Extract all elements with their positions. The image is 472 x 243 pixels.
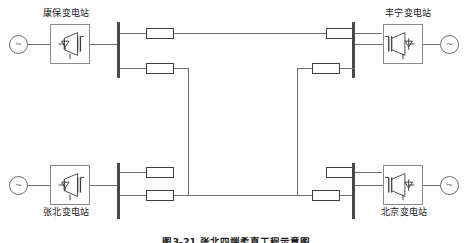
ac-source-icon-fengning: ~ [440, 35, 459, 54]
converter-busbar-link-zhangbei [90, 185, 119, 186]
smoothing-reactor-bottom-right-2 [312, 190, 340, 201]
converter-fengning [383, 24, 423, 64]
igbt-converter-icon [384, 25, 422, 63]
smoothing-reactor-top-left-2 [146, 63, 174, 74]
dc-busbar-kangbao [117, 22, 120, 78]
busbar-reactor-link-bottom-2 [120, 195, 146, 196]
converter-kangbao [50, 24, 90, 64]
busbar-reactor-link-top-1 [120, 33, 146, 34]
converter-beijing [383, 165, 423, 205]
station-label-fengning: 丰宁变电站 [385, 8, 432, 19]
riser-reactor-link-right [297, 68, 312, 69]
dc-busbar-beijing [352, 163, 355, 219]
busbar-converter-link-beijing [355, 185, 383, 186]
busbar-reactor-link-top-2 [120, 68, 146, 69]
dc-transmission-line-bottom [174, 195, 326, 196]
converter-ac-link-fengning [423, 44, 441, 45]
busbar-converter-link-fengning [355, 44, 383, 45]
reactor-busbar-link-top-right-1 [354, 33, 382, 34]
smoothing-reactor-top-right-1 [326, 28, 354, 39]
busbar-reactor-link-bottom-1 [120, 172, 146, 173]
converter-zhangbei [50, 165, 90, 205]
smoothing-reactor-bottom-left-1 [146, 167, 174, 178]
converter-busbar-link-kangbao [90, 44, 119, 45]
figure-caption: 图3-21 张北四端柔直工程示意图 [0, 236, 472, 243]
station-label-zhangbei: 张北变电站 [43, 207, 90, 218]
igbt-converter-icon [51, 166, 89, 204]
igbt-converter-icon [384, 166, 422, 204]
station-label-kangbao: 康保变电站 [43, 8, 90, 19]
dc-busbar-fengning [352, 22, 355, 78]
interpole-link-right [297, 68, 298, 196]
smoothing-reactor-top-left-1 [146, 28, 174, 39]
interpole-link-left [188, 68, 189, 196]
smoothing-reactor-bottom-left-2 [146, 190, 174, 201]
figure-canvas: 康保变电站 ~ 丰宁变电站 [0, 0, 472, 243]
smoothing-reactor-top-right-2 [312, 63, 340, 74]
reactor-busbar-link-top-right-2 [340, 68, 355, 69]
reactor-busbar-link-bottom-right-1 [354, 172, 382, 173]
smoothing-reactor-bottom-right-1 [326, 167, 354, 178]
station-label-beijing: 北京变电站 [381, 207, 428, 218]
dc-transmission-line-top [174, 33, 326, 34]
igbt-converter-icon [51, 25, 89, 63]
ac-link-kangbao [28, 44, 50, 45]
ac-link-zhangbei [28, 185, 50, 186]
ac-source-icon-zhangbei: ~ [9, 176, 28, 195]
ac-source-icon-beijing: ~ [440, 176, 459, 195]
converter-ac-link-beijing [423, 185, 441, 186]
reactor-riser-link-left [174, 68, 189, 69]
ac-source-icon-kangbao: ~ [9, 35, 28, 54]
